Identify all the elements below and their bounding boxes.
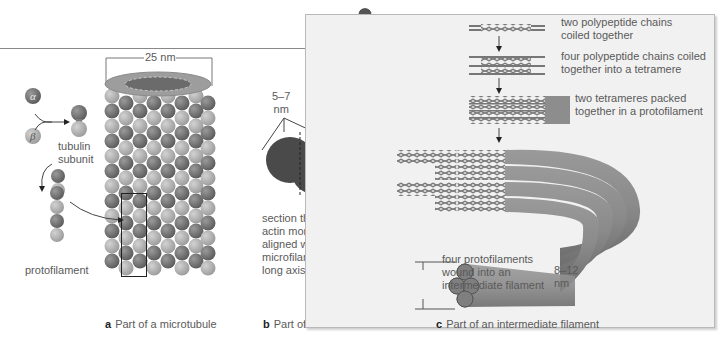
- tetramere-coil-icon: [469, 56, 545, 75]
- step3-label: two tetrameres packed together in a prot…: [575, 92, 703, 118]
- protofilament-packed-icon: [469, 96, 570, 124]
- diameter-label: 25 nm: [145, 51, 176, 64]
- dimer-coil-icon: [469, 24, 545, 32]
- tubulin-dimer-beta-icon: [71, 121, 87, 137]
- alpha-symbol: α: [30, 90, 36, 103]
- step1-label: two polypeptide chains coiled together: [561, 16, 672, 42]
- step4-label: four protofilaments wound into an interm…: [442, 253, 544, 292]
- beta-symbol: β: [30, 130, 35, 143]
- tubulin-dimer-alpha-icon: [71, 105, 87, 121]
- protofilament-label: protofilament: [25, 264, 89, 277]
- filament-size-label: 8–12 nm: [554, 264, 578, 290]
- caption-a: aPart of a microtubule: [105, 318, 217, 330]
- actin-size-label: 5–7 nm: [272, 90, 290, 116]
- caption-c: cPart of an intermediate filament: [436, 318, 599, 330]
- step2-label: four polypeptide chains coiled together …: [561, 50, 706, 76]
- top-rule: [0, 48, 305, 49]
- protofilament-diagram: [30, 160, 170, 260]
